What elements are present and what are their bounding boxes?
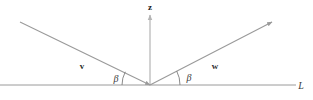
- vector-w-label: w: [212, 61, 219, 71]
- figure-canvas: L z v w β β: [0, 0, 313, 100]
- vector-v-line: [20, 22, 150, 85]
- vector-reflection-figure: L z v w β β: [0, 0, 313, 100]
- vector-w-line: [150, 22, 272, 85]
- angle-label-beta-left: β: [113, 73, 119, 84]
- angle-arc-beta-left: [122, 72, 125, 85]
- line-label-L: L: [297, 80, 304, 91]
- z-axis-label: z: [148, 2, 152, 12]
- angle-arc-beta-right: [177, 71, 180, 85]
- vector-v-label: v: [80, 61, 85, 71]
- angle-label-beta-right: β: [186, 72, 192, 83]
